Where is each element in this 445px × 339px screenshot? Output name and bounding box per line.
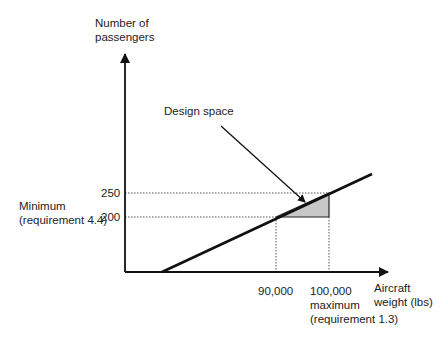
x-axis-label-line1: Aircraft (374, 281, 433, 295)
y-tick-200: 200 (101, 210, 120, 224)
x-axis-label-line2: weight (lbs) (374, 295, 433, 309)
x-axis-label: Aircraft weight (lbs) (374, 281, 433, 309)
design-space-pointer (221, 126, 305, 202)
trend-line (162, 174, 372, 272)
y-tick-250: 250 (101, 186, 120, 200)
minimum-requirement-label: Minimum (requirement 4.4) (19, 199, 107, 227)
design-space-label: Design space (164, 104, 234, 118)
maximum-label-line2: (requirement 1.3) (310, 312, 398, 326)
minimum-label-line2: (requirement 4.4) (19, 213, 107, 227)
y-axis-label-line2: passengers (95, 30, 154, 44)
y-axis-label: Number of passengers (95, 16, 154, 44)
x-tick-90000: 90,000 (258, 284, 293, 298)
minimum-label-line1: Minimum (19, 199, 107, 213)
y-axis-label-line1: Number of (95, 16, 154, 30)
